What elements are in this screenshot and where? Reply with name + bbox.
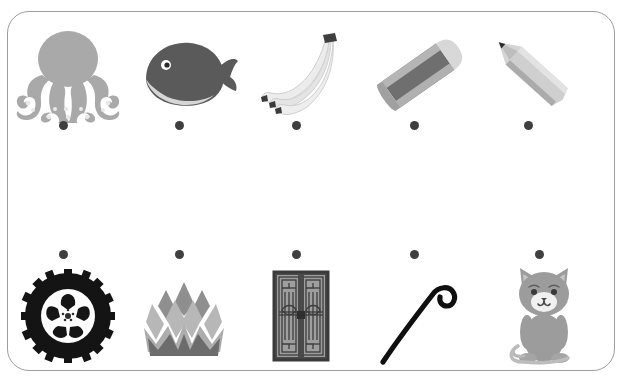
item-cell-octopus[interactable] — [8, 19, 128, 169]
item-cell-lotus[interactable] — [124, 250, 244, 376]
item-cell-pencil[interactable] — [473, 19, 593, 169]
item-cell-cat[interactable] — [484, 250, 604, 376]
connector-dot-cat[interactable] — [535, 250, 544, 259]
tyre-icon — [8, 266, 128, 366]
item-cell-walking-stick[interactable] — [359, 250, 479, 376]
item-cell-bananas[interactable] — [241, 19, 361, 169]
item-cell-tyre[interactable] — [8, 250, 128, 376]
item-cell-window[interactable] — [241, 250, 361, 376]
eraser-icon — [359, 23, 479, 123]
connector-dot-octopus[interactable] — [59, 121, 68, 130]
bananas-icon — [241, 23, 361, 123]
cat-icon — [484, 266, 604, 366]
connector-dot-window[interactable] — [292, 250, 301, 259]
connector-dot-walking-stick[interactable] — [410, 250, 419, 259]
pencil-icon — [473, 23, 593, 123]
item-cell-eraser[interactable] — [359, 19, 479, 169]
connector-dot-bananas[interactable] — [292, 121, 301, 130]
item-cell-whale[interactable] — [124, 19, 244, 169]
worksheet-panel — [7, 11, 615, 371]
whale-icon — [124, 23, 244, 123]
octopus-icon — [8, 23, 128, 123]
connector-dot-eraser[interactable] — [410, 121, 419, 130]
lotus-icon — [124, 266, 244, 366]
connector-dot-whale[interactable] — [175, 121, 184, 130]
connector-dot-lotus[interactable] — [175, 250, 184, 259]
walking-stick-icon — [359, 266, 479, 366]
window-icon — [241, 266, 361, 366]
connector-dot-pencil[interactable] — [524, 121, 533, 130]
connector-dot-tyre[interactable] — [59, 250, 68, 259]
